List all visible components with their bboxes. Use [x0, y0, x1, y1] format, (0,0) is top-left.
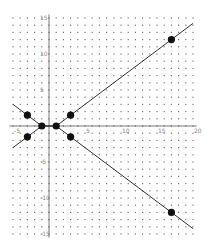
data-point: [168, 209, 175, 216]
chart: -5510152015105-5-10-15: [0, 0, 207, 248]
x-tick-label: -5: [14, 127, 20, 134]
data-point: [38, 122, 45, 129]
y-tick-label: -15: [40, 230, 50, 237]
y-tick-label: 5: [40, 86, 44, 93]
y-tick-label: 15: [40, 14, 48, 21]
y-tick-label: 10: [40, 50, 48, 57]
lower-line: [13, 126, 193, 229]
x-tick-label: 20: [194, 127, 202, 134]
data-point: [24, 112, 31, 119]
data-point: [24, 133, 31, 140]
data-point: [168, 36, 175, 43]
y-tick-label: -10: [40, 194, 50, 201]
data-point: [53, 122, 60, 129]
upper-line: [13, 23, 193, 126]
data-point: [67, 112, 74, 119]
x-tick-label: 5: [86, 127, 90, 134]
x-tick-label: 10: [122, 127, 130, 134]
y-tick-label: -5: [40, 158, 46, 165]
x-tick-label: 15: [158, 127, 166, 134]
data-point: [67, 133, 74, 140]
